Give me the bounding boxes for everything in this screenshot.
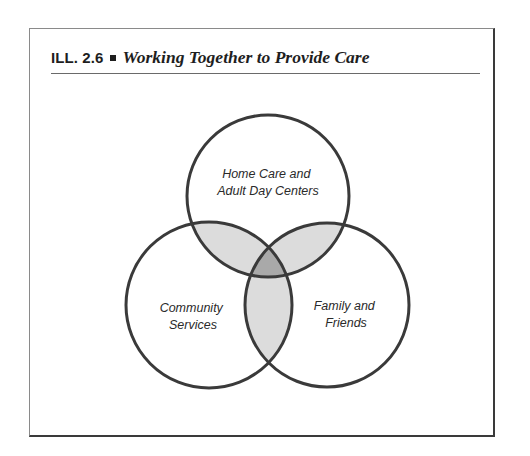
- label-community-services: Community Services: [160, 301, 227, 332]
- venn-diagram: Home Care and Adult Day Centers Communit…: [0, 0, 530, 456]
- label-family-friends: Family and Friends: [314, 299, 379, 330]
- label-home-care: Home Care and Adult Day Centers: [216, 167, 318, 198]
